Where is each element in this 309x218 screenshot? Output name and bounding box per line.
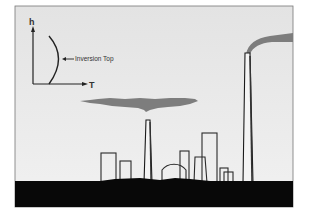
short-stack bbox=[144, 120, 152, 183]
inversion-diagram: h T Inversion Top bbox=[0, 0, 309, 218]
x-axis-label: T bbox=[89, 80, 95, 90]
ground bbox=[15, 178, 293, 207]
inversion-top-label: Inversion Top bbox=[75, 55, 114, 63]
y-axis-label: h bbox=[29, 17, 35, 27]
